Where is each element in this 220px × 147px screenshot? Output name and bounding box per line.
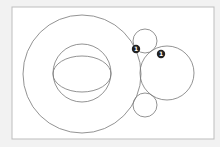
marker-badge: 1 (132, 45, 140, 53)
geometry-diagram: 11 (0, 0, 220, 147)
marker-label: 1 (159, 50, 163, 57)
marker-badge: 1 (157, 50, 165, 58)
diagram-frame (12, 7, 214, 139)
marker-label: 1 (134, 45, 138, 52)
